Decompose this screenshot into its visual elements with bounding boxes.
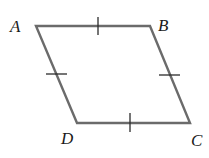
vertex-label-d: D [60, 129, 74, 148]
vertex-label-c: C [191, 131, 203, 150]
rhombus-diagram: A B C D [0, 0, 209, 158]
vertex-label-b: B [158, 16, 169, 35]
vertex-label-a: A [9, 17, 21, 36]
